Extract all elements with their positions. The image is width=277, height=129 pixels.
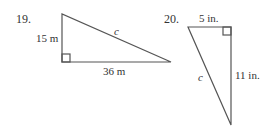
triangles-diagram [0,0,277,129]
triangle-19 [62,14,171,62]
problem-number-19: 19. [16,14,31,25]
right-angle-marker-19 [62,54,70,62]
triangle-20 [188,27,231,125]
problem-number-20: 20. [164,14,179,25]
leg-label-horizontal-20: 5 in. [199,13,219,24]
hypotenuse-label-20: c [198,72,203,83]
hypotenuse-label-19: c [114,26,119,37]
leg-label-horizontal-19: 36 m [103,66,125,77]
leg-label-vertical-19: 15 m [36,33,58,44]
leg-label-vertical-20: 11 in. [235,70,260,81]
right-angle-marker-20 [223,27,231,35]
